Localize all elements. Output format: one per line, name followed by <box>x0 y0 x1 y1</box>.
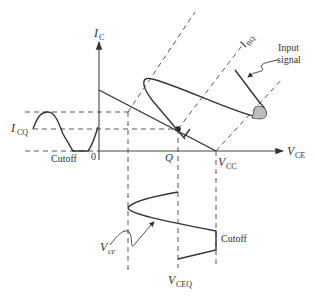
vce-axis-label-sub: CE <box>295 151 305 160</box>
vcc-label-sub: CC <box>226 162 237 171</box>
icq-label-sub: CQ <box>17 128 28 137</box>
cutoff-bottom-label: Cutoff <box>221 233 248 244</box>
vce-output-wave <box>128 192 216 259</box>
input-signal-pointer <box>248 60 278 77</box>
vce-signal-label-sub: ce <box>108 247 116 256</box>
load-line-diagram: I C V CE 0 I CQ Cutoff Cutoff Q V CC V C… <box>0 0 314 297</box>
cutoff-left-label: Cutoff <box>51 153 78 164</box>
input-clipped-region <box>252 106 267 119</box>
vceq-label-sub: CEQ <box>176 280 192 289</box>
ic-output-wave <box>33 112 98 151</box>
input-signal-label-line2: signal <box>277 54 301 65</box>
dc-load-line <box>99 90 216 151</box>
q-point-label: Q <box>165 151 173 163</box>
ibq-projection <box>178 43 244 129</box>
input-signal-label-line1: Input <box>278 42 299 53</box>
origin-label: 0 <box>91 151 96 162</box>
ib-max-projection <box>128 12 195 112</box>
icq-label: I <box>10 121 16 135</box>
ic-axis-label-sub: C <box>99 33 104 42</box>
diagram-canvas: I C V CE 0 I CQ Cutoff Cutoff Q V CC V C… <box>0 0 314 297</box>
vce-pointer <box>110 222 154 246</box>
